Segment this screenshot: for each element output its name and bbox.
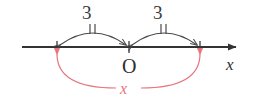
- arc-right-label: 3: [153, 3, 163, 22]
- arc-total-x-left-segment: [57, 54, 116, 88]
- arc-left-label: 3: [82, 3, 92, 22]
- arc-total-x-label: x: [120, 81, 127, 97]
- arc-total-x-right-segment: [141, 54, 200, 88]
- arc-left: [60, 33, 126, 45]
- origin-label: O: [122, 56, 136, 76]
- arc-right: [132, 33, 197, 45]
- x-axis-label: x: [226, 56, 234, 73]
- number-line-figure: 3 3 O x x: [0, 0, 254, 101]
